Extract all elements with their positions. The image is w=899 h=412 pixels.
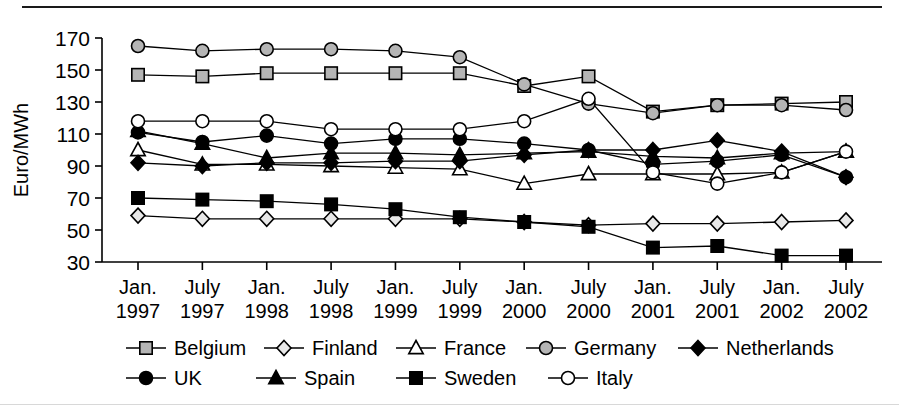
- data-point-sweden: [840, 249, 852, 261]
- data-point-sweden: [647, 241, 659, 253]
- data-point-italy: [646, 166, 659, 179]
- legend-item-france[interactable]: France: [396, 337, 506, 359]
- data-point-germany: [132, 40, 145, 53]
- legend-marker-netherlands: [691, 341, 705, 356]
- series-line-uk: [138, 132, 846, 177]
- legend-row-2: UKSpainSwedenItaly: [126, 367, 633, 389]
- data-point-italy: [132, 115, 145, 128]
- data-point-germany: [453, 51, 466, 64]
- legend-item-netherlands[interactable]: Netherlands: [678, 337, 834, 359]
- legend-item-belgium[interactable]: Belgium: [126, 337, 246, 359]
- x-tick-label-month: Jan.: [377, 276, 415, 298]
- data-point-sweden: [196, 193, 208, 205]
- data-point-sweden: [325, 198, 337, 210]
- x-tick-label-year: 2000: [566, 300, 611, 322]
- legend-item-uk[interactable]: UK: [126, 367, 202, 389]
- top-divider-rule: [22, 6, 882, 8]
- x-tick-group: Jan.1997July1997Jan.1998July1998Jan.1999…: [116, 262, 869, 322]
- data-point-finland: [195, 211, 209, 226]
- x-tick-label-month: July: [699, 276, 735, 298]
- x-tick-label-month: Jan.: [505, 276, 543, 298]
- y-axis-title: Euro/MWh: [10, 103, 32, 197]
- x-tick-label-year: 1998: [244, 300, 289, 322]
- legend-label-belgium: Belgium: [174, 337, 246, 359]
- data-point-france: [131, 143, 145, 156]
- data-point-uk: [260, 129, 273, 142]
- legend-label-sweden: Sweden: [444, 367, 516, 389]
- data-point-italy: [711, 177, 724, 190]
- y-tick-label: 30: [67, 251, 90, 274]
- y-tick-label: 50: [67, 219, 90, 242]
- data-point-france: [581, 167, 595, 180]
- data-point-netherlands: [195, 159, 209, 174]
- figure-container: 17015013011090705030Euro/MWhJan.1997July…: [0, 0, 899, 412]
- legend-item-spain[interactable]: Spain: [256, 367, 355, 389]
- line-chart: 17015013011090705030Euro/MWhJan.1997July…: [0, 0, 899, 412]
- data-point-finland: [260, 211, 274, 226]
- y-tick-label: 110: [57, 123, 90, 146]
- legend-marker-belgium: [140, 342, 152, 354]
- legend-item-sweden[interactable]: Sweden: [396, 367, 516, 389]
- x-tick-label-year: 1999: [438, 300, 483, 322]
- data-point-sweden: [582, 221, 594, 233]
- data-point-belgium: [261, 67, 273, 79]
- x-tick-label-month: July: [571, 276, 607, 298]
- data-point-spain: [453, 147, 467, 160]
- data-point-finland: [324, 211, 338, 226]
- x-tick-label-month: July: [313, 276, 349, 298]
- x-tick-label-year: 2002: [824, 300, 869, 322]
- data-point-sweden: [775, 249, 787, 261]
- data-point-sweden: [261, 195, 273, 207]
- data-point-sweden: [389, 203, 401, 215]
- data-point-germany: [325, 43, 338, 56]
- data-point-sweden: [454, 211, 466, 223]
- data-point-spain: [388, 146, 402, 159]
- y-tick-label: 170: [55, 27, 90, 50]
- x-tick-label-month: Jan.: [119, 276, 157, 298]
- bottom-divider-rule: [0, 404, 899, 405]
- data-point-belgium: [582, 70, 594, 82]
- x-tick-label-year: 2002: [759, 300, 804, 322]
- data-point-germany: [260, 43, 273, 56]
- legend-label-uk: UK: [174, 367, 202, 389]
- legend-label-germany: Germany: [574, 337, 656, 359]
- y-tick-label: 130: [55, 91, 90, 114]
- x-tick-label-year: 2001: [631, 300, 676, 322]
- data-point-germany: [196, 44, 209, 57]
- legend-marker-sweden: [410, 372, 422, 384]
- x-tick-label-month: July: [442, 276, 478, 298]
- data-point-belgium: [454, 67, 466, 79]
- data-point-germany: [389, 44, 402, 57]
- data-point-netherlands: [710, 133, 724, 148]
- legend-row-1: BelgiumFinlandFranceGermanyNetherlands: [126, 337, 834, 359]
- data-point-uk: [840, 171, 853, 184]
- data-point-italy: [196, 115, 209, 128]
- legend-item-germany[interactable]: Germany: [526, 337, 656, 359]
- data-point-finland: [131, 208, 145, 223]
- x-tick-label-year: 1999: [373, 300, 418, 322]
- y-tick-label: 70: [67, 187, 90, 210]
- data-point-italy: [775, 166, 788, 179]
- data-point-germany: [775, 99, 788, 112]
- series-markers-uk: [132, 126, 853, 184]
- x-tick-label-month: Jan.: [763, 276, 801, 298]
- data-point-germany: [840, 104, 853, 117]
- x-tick-label-year: 2001: [695, 300, 740, 322]
- series-lines-group: [138, 46, 846, 256]
- axes-group: 17015013011090705030: [55, 27, 882, 274]
- series-line-finland: [138, 216, 846, 226]
- x-tick-label-month: Jan.: [634, 276, 672, 298]
- legend-marker-germany: [540, 342, 553, 355]
- legend-marker-spain: [269, 371, 283, 384]
- legend-item-finland[interactable]: Finland: [264, 337, 378, 359]
- data-point-netherlands: [131, 155, 145, 170]
- series-markers-sweden: [132, 192, 852, 262]
- data-point-italy: [582, 92, 595, 105]
- legend-item-italy[interactable]: Italy: [548, 367, 633, 389]
- y-tick-label: 90: [67, 155, 90, 178]
- legend-marker-italy: [562, 372, 575, 385]
- x-tick-label-month: July: [828, 276, 864, 298]
- data-point-finland: [839, 213, 853, 228]
- data-point-italy: [389, 123, 402, 136]
- data-point-germany: [711, 99, 724, 112]
